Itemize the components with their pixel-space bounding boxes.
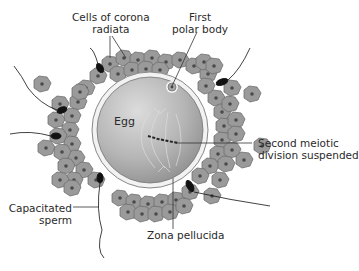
label-zona-pellucida: Zona pellucida — [147, 229, 224, 241]
label-corona-radiata: Cells of corona radiata — [72, 11, 150, 35]
label-first-polar-body: First polar body — [172, 11, 228, 35]
label-egg: Egg — [114, 116, 135, 128]
label-second-meiotic-division: Second meiotic division suspended — [258, 137, 359, 161]
egg-cell — [97, 77, 203, 183]
label-capacitated-sperm: Capacitated sperm — [6, 202, 72, 226]
